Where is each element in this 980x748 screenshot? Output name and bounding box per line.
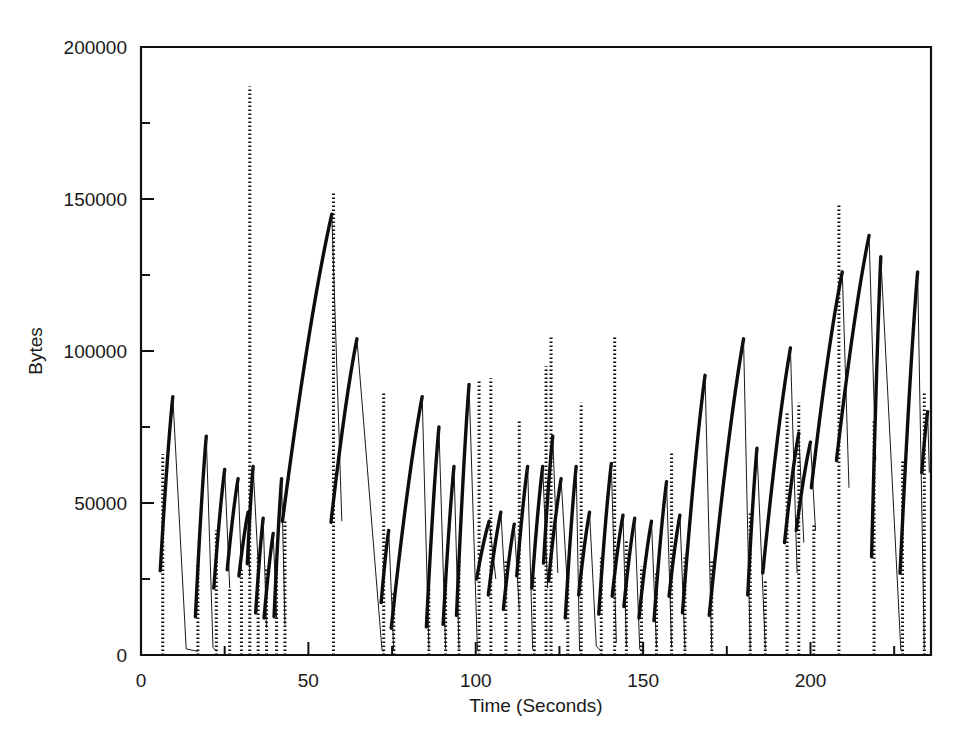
y-axis-title: Bytes	[25, 327, 46, 375]
x-tick-label: 50	[298, 670, 319, 691]
chart-background	[0, 0, 980, 748]
y-tick-label: 150000	[64, 189, 127, 210]
x-tick-label: 200	[795, 670, 827, 691]
chart-figure: 050000100000150000200000050100150200 Tim…	[0, 0, 980, 748]
y-tick-label: 100000	[64, 341, 127, 362]
y-tick-label: 0	[116, 645, 127, 666]
y-tick-label: 200000	[64, 37, 127, 58]
x-axis-title: Time (Seconds)	[469, 695, 602, 716]
y-tick-label: 50000	[74, 493, 127, 514]
chart-svg: 050000100000150000200000050100150200 Tim…	[0, 0, 980, 748]
x-tick-label: 100	[460, 670, 492, 691]
x-tick-label: 0	[136, 670, 147, 691]
x-tick-label: 150	[627, 670, 659, 691]
